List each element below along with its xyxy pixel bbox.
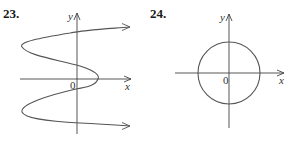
figure-24: 24. y x 0: [145, 0, 291, 143]
figure-23-graph: y x 0: [0, 0, 145, 143]
x-axis-label: x: [124, 80, 130, 92]
origin-label: 0: [223, 74, 229, 86]
s-curve: [22, 27, 130, 126]
origin-label: 0: [70, 79, 76, 91]
y-axis-label: y: [219, 11, 225, 23]
figure-24-graph: y x 0: [145, 0, 291, 143]
figure-23: 23. y x 0: [0, 0, 145, 143]
y-axis-label: y: [67, 10, 73, 22]
x-axis-label: x: [278, 74, 284, 86]
